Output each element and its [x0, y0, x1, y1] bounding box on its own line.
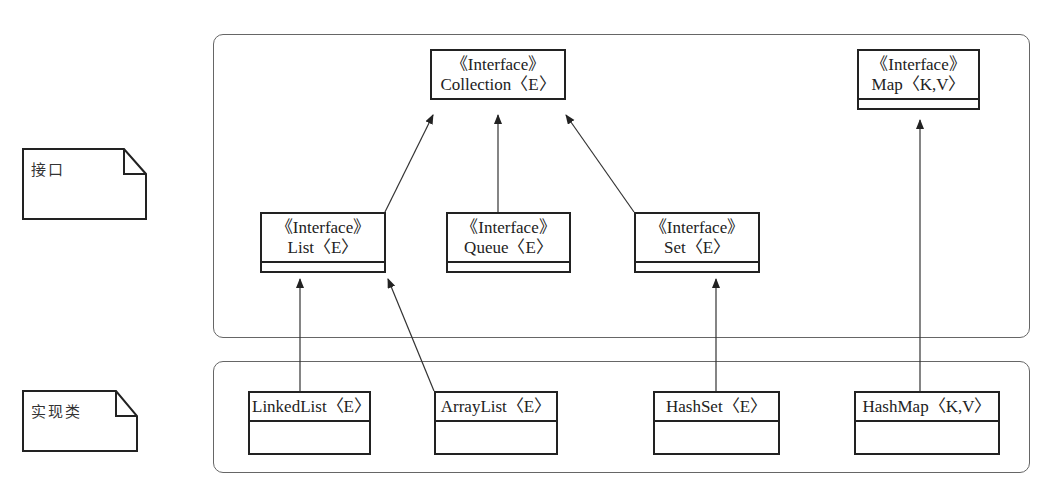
- class-name: ArrayList〈E〉: [436, 393, 556, 422]
- interface-collection: 《Interface》 Collection〈E〉: [430, 49, 566, 100]
- stereotype-label: 《Interface》: [450, 218, 567, 238]
- class-body: [250, 422, 369, 453]
- edge-set-collection: [566, 115, 634, 212]
- class-hashset: HashSet〈E〉: [653, 391, 780, 455]
- stereotype-label: 《Interface》: [264, 218, 382, 238]
- class-body: [436, 422, 556, 453]
- edge-arraylist-list: [388, 279, 434, 391]
- interface-list: 《Interface》 List〈E〉: [260, 212, 386, 273]
- class-body: [856, 422, 998, 453]
- interface-map: 《Interface》 Map〈K,V〉: [857, 49, 980, 110]
- stereotype-label: 《Interface》: [861, 55, 976, 75]
- stereotype-label: 《Interface》: [638, 218, 756, 238]
- interface-name: List〈E〉: [264, 238, 382, 258]
- interface-name: Set〈E〉: [638, 238, 756, 258]
- class-name: HashSet〈E〉: [655, 393, 778, 422]
- class-body: [655, 422, 778, 453]
- note-interfaces-label: 接口: [31, 158, 65, 179]
- class-arraylist: ArrayList〈E〉: [434, 391, 558, 455]
- edge-list-collection: [385, 115, 433, 212]
- note-implementations-label: 实现类: [31, 400, 82, 421]
- interface-queue: 《Interface》 Queue〈E〉: [446, 212, 571, 273]
- class-name: HashMap〈K,V〉: [856, 393, 998, 422]
- stereotype-label: 《Interface》: [434, 55, 562, 75]
- interface-name: Collection〈E〉: [434, 75, 562, 95]
- interface-name: Map〈K,V〉: [861, 75, 976, 95]
- note-implementations: 实现类: [22, 390, 139, 453]
- interface-body: [448, 263, 569, 271]
- class-hashmap: HashMap〈K,V〉: [854, 391, 1000, 455]
- interface-set: 《Interface》 Set〈E〉: [634, 212, 760, 273]
- interface-name: Queue〈E〉: [450, 238, 567, 258]
- class-linkedlist: LinkedList〈E〉: [248, 391, 371, 455]
- interface-body: [636, 263, 758, 271]
- class-name: LinkedList〈E〉: [250, 393, 369, 422]
- interface-body: [262, 263, 384, 271]
- note-interfaces: 接口: [22, 148, 148, 221]
- interface-body: [859, 100, 978, 108]
